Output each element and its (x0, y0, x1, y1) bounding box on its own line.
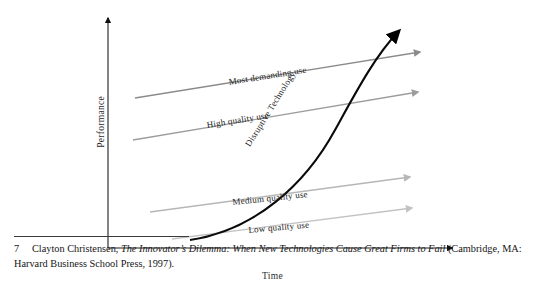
footnote-marker: 7 (14, 242, 32, 257)
footnote-text: 7Clayton Christensen, The Innovator’s Di… (14, 242, 524, 271)
footnote: 7Clayton Christensen, The Innovator’s Di… (14, 236, 524, 271)
footnote-title: The Innovator’s Dilemma: When New Techno… (121, 243, 445, 254)
diagram-canvas (0, 0, 539, 258)
y-axis-label: Performance (96, 96, 106, 148)
x-axis-label: Time (262, 271, 283, 281)
footnote-separator (14, 236, 189, 237)
disruptive-innovation-diagram: Performance Time Most demanding use High… (0, 0, 539, 258)
curve-disruptive-technology (190, 32, 398, 240)
footnote-author: Clayton Christensen, (32, 243, 118, 254)
